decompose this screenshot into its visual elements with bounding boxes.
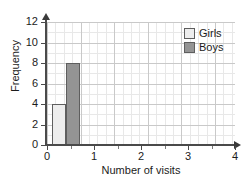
x-tick-label-2: 2 [131, 150, 151, 163]
x-tick-label-0: 0 [37, 150, 57, 163]
y-tick-8 [41, 63, 45, 64]
bar-boys-0 [66, 63, 80, 145]
x-tick-minor [165, 146, 166, 149]
x-tick-label-1: 1 [84, 150, 104, 163]
x-tick-minor [71, 146, 72, 149]
y-tick-label-2: 2 [13, 119, 38, 130]
y-axis-line [45, 19, 47, 145]
y-tick-label-0: 0 [13, 139, 38, 150]
legend-item-girls: Girls [184, 27, 223, 39]
legend-item-boys: Boys [184, 41, 223, 53]
chart-legend: GirlsBoys [184, 27, 223, 53]
legend-label: Girls [199, 27, 222, 39]
y-axis-arrow-icon [42, 13, 50, 20]
x-tick-minor [118, 146, 119, 149]
bar-chart-figure: 01234121086420 Number of visits Frequenc… [0, 0, 247, 184]
bar-girls-0 [52, 104, 66, 145]
x-axis-title: Number of visits [47, 164, 235, 176]
legend-swatch-icon-boys [184, 42, 195, 53]
x-tick-minor [212, 146, 213, 149]
y-tick-12 [41, 22, 45, 23]
y-tick-0 [41, 145, 45, 146]
x-tick-label-3: 3 [178, 150, 198, 163]
y-tick-10 [41, 43, 45, 44]
y-tick-6 [41, 84, 45, 85]
y-tick-4 [41, 104, 45, 105]
y-axis-title: Frequency [9, 26, 21, 106]
x-tick-label-4: 4 [225, 150, 245, 163]
legend-swatch-icon-girls [184, 28, 195, 39]
y-tick-2 [41, 125, 45, 126]
x-axis-line [45, 144, 235, 146]
legend-label: Boys [199, 41, 223, 53]
